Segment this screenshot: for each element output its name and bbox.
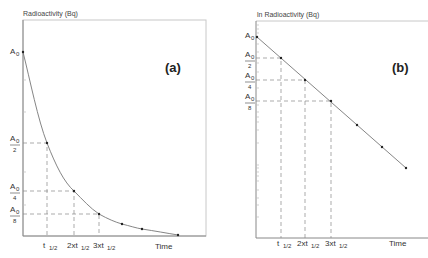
chart-b-y-axis-title: ln Radioactivity (Bq)	[257, 11, 319, 19]
svg-text:8: 8	[248, 105, 252, 111]
svg-text:1/2: 1/2	[283, 243, 292, 249]
chart-b-x-axis-title: Time	[389, 239, 407, 248]
svg-text:8: 8	[13, 218, 17, 224]
svg-text:2xt: 2xt	[297, 239, 308, 248]
chart-a-frame	[23, 20, 206, 236]
svg-text:0: 0	[16, 186, 20, 192]
chart-b-y-label-A0-over-8: A 0 8	[245, 92, 255, 111]
svg-text:2: 2	[248, 63, 252, 69]
chart-b-x-label-2t-half: 2xt 1/2	[297, 239, 320, 249]
chart-b-guides	[256, 58, 331, 238]
chart-a-panel-label: (a)	[165, 60, 181, 75]
svg-text:2: 2	[13, 147, 17, 153]
chart-b-x-label-3t-half: 3xt 1/2	[325, 239, 348, 249]
chart-a-guides	[23, 143, 99, 236]
chart-a-x-label-3t-half: 3xt 1/2	[93, 241, 116, 251]
svg-text:2xt: 2xt	[67, 241, 78, 250]
chart-a-data-points	[22, 51, 179, 236]
chart-b-panel-label: (b)	[392, 60, 409, 75]
svg-text:1/2: 1/2	[311, 243, 320, 249]
svg-text:0: 0	[16, 209, 20, 215]
chart-b-decay-line	[257, 37, 406, 168]
svg-text:1/2: 1/2	[81, 245, 90, 251]
chart-a-y-label-A0-over-2: A 0 2	[10, 134, 20, 153]
svg-text:3xt: 3xt	[325, 239, 336, 248]
svg-text:t: t	[43, 241, 46, 250]
chart-b-y-label-A0-over-4: A 0 4	[245, 71, 255, 90]
svg-text:t: t	[277, 239, 280, 248]
chart-a-x-axis-title: Time	[155, 242, 173, 251]
svg-text:0: 0	[16, 138, 20, 144]
chart-b: ln Radioactivity (Bq)	[245, 11, 428, 249]
svg-text:0: 0	[251, 35, 255, 41]
svg-text:1/2: 1/2	[107, 245, 116, 251]
chart-a-y-label-A0-over-8: A 0 8	[10, 205, 20, 224]
chart-a-x-label-2t-half: 2xt 1/2	[67, 241, 90, 251]
chart-b-y-label-A0-over-2: A 0 2	[245, 50, 255, 69]
chart-a-y-label-A0-over-4: A 0 4	[10, 182, 20, 201]
chart-a-y-axis-title: Radioactivity (Bq)	[23, 10, 78, 18]
svg-text:0: 0	[251, 75, 255, 81]
chart-a: Radioactivity (Bq) (a)	[10, 10, 206, 251]
figure: Radioactivity (Bq) (a)	[0, 0, 428, 258]
svg-text:0: 0	[251, 96, 255, 102]
svg-text:4: 4	[13, 195, 17, 201]
svg-text:0: 0	[16, 51, 20, 57]
chart-b-x-label-t-half: t 1/2	[277, 239, 292, 249]
svg-text:1/2: 1/2	[49, 245, 58, 251]
chart-a-y-label-A0: A 0	[10, 47, 20, 57]
svg-text:4: 4	[248, 84, 252, 90]
svg-text:3xt: 3xt	[93, 241, 104, 250]
chart-b-y-label-A0: A 0	[245, 31, 255, 41]
chart-a-x-label-t-half: t 1/2	[43, 241, 58, 251]
svg-text:1/2: 1/2	[339, 243, 348, 249]
svg-text:0: 0	[251, 54, 255, 60]
